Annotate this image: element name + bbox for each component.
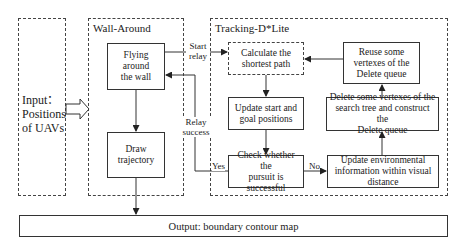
start-relay-line-2: relay — [186, 51, 210, 61]
no-label: No — [309, 161, 320, 171]
connectors — [0, 0, 464, 249]
relay-success-label: Relay success — [181, 117, 211, 137]
relay-success-line-2: success — [181, 127, 211, 137]
start-relay-label: Start relay — [186, 41, 210, 61]
relay-success-line-1: Relay — [181, 117, 211, 127]
input-hollow-arrow — [66, 99, 89, 119]
start-relay-line-1: Start — [186, 41, 210, 51]
yes-label: Yes — [212, 161, 225, 171]
